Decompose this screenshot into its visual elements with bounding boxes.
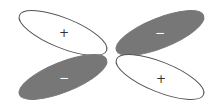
orbital-diagram: + − − + <box>0 0 222 110</box>
minus-sign: − <box>59 71 69 85</box>
minus-sign: − <box>155 26 165 40</box>
plus-sign: + <box>156 72 166 86</box>
plus-sign: + <box>59 26 69 40</box>
